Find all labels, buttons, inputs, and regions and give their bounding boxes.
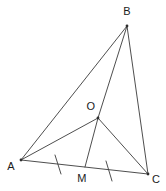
side-AB xyxy=(21,26,127,160)
geometry-figure: A B C O M xyxy=(0,0,166,191)
tick-mark-MC xyxy=(106,161,112,181)
label-A: A xyxy=(7,160,15,172)
label-M: M xyxy=(77,172,86,184)
label-C: C xyxy=(152,173,160,185)
vertex-dot-A xyxy=(20,159,23,162)
label-B: B xyxy=(123,5,131,17)
figure-canvas: A B C O M xyxy=(0,0,166,191)
side-BC xyxy=(127,26,148,174)
vertex-dot-C xyxy=(147,173,150,176)
cevian-BO xyxy=(98,26,127,118)
cevian-AO xyxy=(21,118,98,160)
cevian-OC xyxy=(98,118,148,174)
vertex-dot-O xyxy=(97,117,100,120)
vertex-dot-B xyxy=(126,25,129,28)
label-O: O xyxy=(87,100,96,112)
cevian-OM xyxy=(85,118,98,167)
